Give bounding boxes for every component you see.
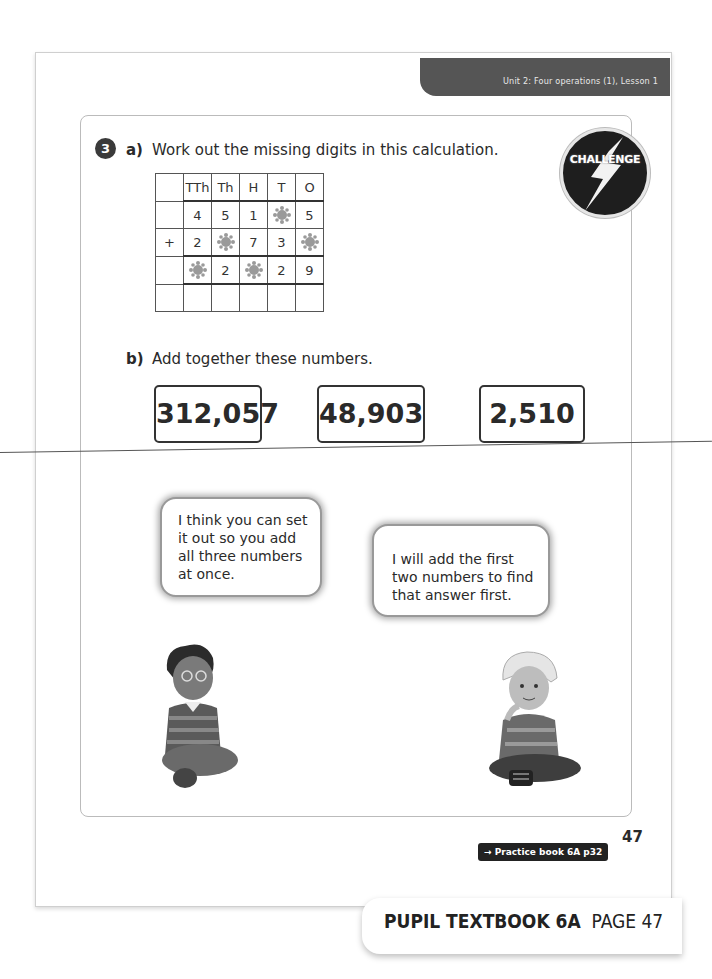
splat-icon (189, 261, 207, 279)
table-header-cell: Th (212, 174, 240, 202)
footer-caption: PUPIL TEXTBOOK 6A PAGE 47 (384, 910, 663, 932)
table-cell: 2 (184, 229, 212, 257)
table-header-cell: T (268, 174, 296, 202)
speech-bubble-left: I think you can set it out so you add al… (160, 497, 322, 597)
table-header-row: TTh Th H T O (156, 174, 324, 202)
table-header-cell: TTh (184, 174, 212, 202)
part-a-label: a) (126, 141, 143, 159)
table-row: + 2 7 3 (156, 229, 324, 257)
table-cell: 5 (212, 201, 240, 229)
table-cell: 4 (184, 201, 212, 229)
table-cell (156, 201, 184, 229)
table-cell: 5 (296, 201, 324, 229)
part-a-text: Work out the missing digits in this calc… (152, 141, 499, 159)
table-header-cell: H (240, 174, 268, 202)
table-cell (156, 284, 184, 312)
speech-text: I think you can set it out so you add al… (178, 512, 307, 582)
unit-banner: Unit 2: Four operations (1), Lesson 1 (420, 58, 670, 96)
lightning-icon (563, 131, 647, 215)
part-b-label: b) (126, 350, 144, 368)
number-card: 2,510 (479, 385, 585, 443)
table-cell: 9 (296, 256, 324, 284)
challenge-badge: CHALLENGE (560, 128, 650, 218)
table-cell: 1 (240, 201, 268, 229)
table-cell (268, 284, 296, 312)
table-cell: 2 (212, 256, 240, 284)
splat-icon (301, 233, 319, 251)
splat-icon (245, 261, 263, 279)
table-cell: 2 (268, 256, 296, 284)
book-title: PUPIL TEXTBOOK 6A (384, 910, 581, 932)
splat-icon (217, 233, 235, 251)
missing-digit-cell (240, 256, 268, 284)
table-header-cell (156, 174, 184, 202)
missing-digit-cell (212, 229, 240, 257)
splat-icon (273, 206, 291, 224)
part-b-text: Add together these numbers. (152, 350, 373, 368)
missing-digit-cell (268, 201, 296, 229)
missing-digit-cell (296, 229, 324, 257)
blond-boy-illustration (485, 648, 585, 798)
table-header-cell: O (296, 174, 324, 202)
missing-digit-cell (184, 256, 212, 284)
page-number: 47 (622, 828, 643, 846)
challenge-label: CHALLENGE (567, 153, 643, 166)
table-cell (212, 284, 240, 312)
table-cell (156, 256, 184, 284)
speech-bubble-right: I will add the first two numbers to find… (372, 524, 550, 617)
table-cell: + (156, 229, 184, 257)
table-row: 4 5 1 5 (156, 201, 324, 229)
number-card: 312,057 (154, 385, 262, 443)
table-row: 2 2 9 (156, 256, 324, 284)
practice-book-link[interactable]: → Practice book 6A p32 (478, 843, 608, 861)
table-cell: 7 (240, 229, 268, 257)
question-number: 3 (95, 138, 116, 159)
page-label: PAGE 47 (592, 910, 664, 932)
speech-text: I will add the first two numbers to find… (392, 551, 533, 603)
table-cell (184, 284, 212, 312)
number-card: 48,903 (317, 385, 425, 443)
boy-with-glasses-illustration (155, 640, 250, 795)
table-cell: 3 (268, 229, 296, 257)
place-value-table: TTh Th H T O 4 5 1 5 + 2 7 3 2 2 9 (155, 173, 324, 312)
table-cell (296, 284, 324, 312)
table-row-answer (156, 284, 324, 312)
table-cell (240, 284, 268, 312)
